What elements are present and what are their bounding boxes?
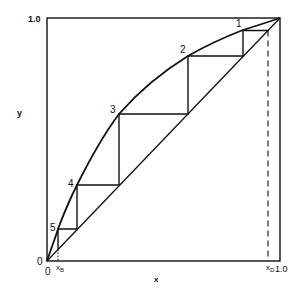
- stage-label-2: 2: [180, 44, 186, 55]
- stage-label-4: 4: [68, 178, 74, 189]
- x-origin-label: 0: [45, 266, 51, 277]
- diagram-canvas: 1 2 3 4 5 1.0 y 0 0 xB xD 1.0 x: [0, 0, 302, 295]
- y-origin-label: 0: [37, 256, 43, 267]
- stage-label-5: 5: [50, 222, 56, 233]
- y-axis-label: y: [17, 108, 22, 118]
- y-axis-top-tick: 1.0: [28, 14, 41, 24]
- x-axis-label: x: [154, 275, 159, 284]
- xd-label: xD: [266, 263, 275, 273]
- diagonal-line: [47, 18, 280, 261]
- stage-label-3: 3: [110, 104, 116, 115]
- xb-label: xB: [56, 263, 64, 273]
- x-axis-right-tick: 1.0: [275, 264, 288, 274]
- stage-label-1: 1: [236, 18, 242, 29]
